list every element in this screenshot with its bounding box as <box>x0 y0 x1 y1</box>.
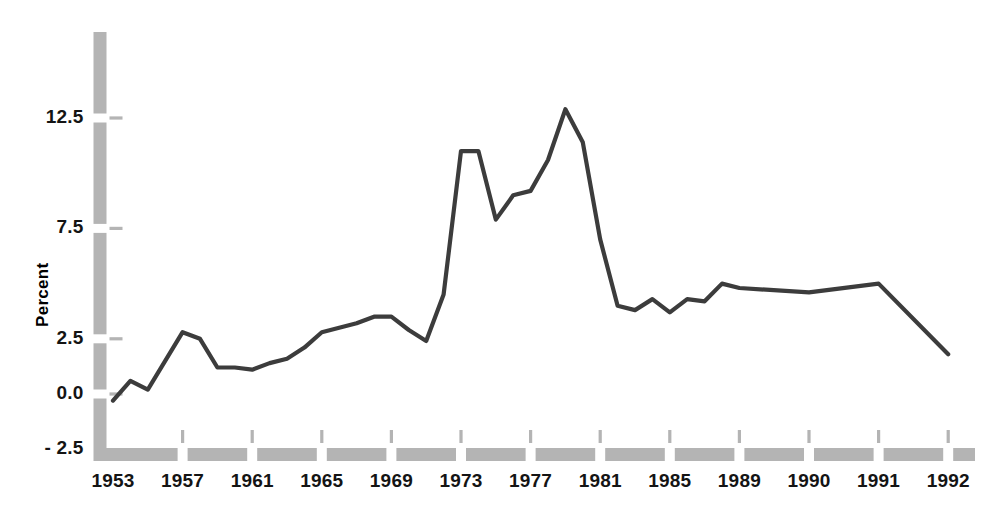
x-tick-label: 1957 <box>148 470 218 492</box>
x-tick-label: 1973 <box>426 470 496 492</box>
x-tick-label: 1992 <box>913 470 983 492</box>
y-tick-label: 7.5 <box>56 216 83 238</box>
x-tick-label: 1981 <box>565 470 635 492</box>
y-tick-label: 12.5 <box>46 106 84 128</box>
line-chart-plot <box>0 0 990 516</box>
data-series-line <box>113 109 948 400</box>
y-tick-label: - 2.5 <box>44 437 83 459</box>
x-tick-label: 1969 <box>356 470 426 492</box>
x-tick-label: 1961 <box>217 470 287 492</box>
y-tick-label: 0.0 <box>56 382 83 404</box>
x-tick-label: 1989 <box>704 470 774 492</box>
y-axis-title: Percent <box>33 237 53 327</box>
x-tick-label: 1953 <box>78 470 148 492</box>
chart-container: Percent 12.57.52.50.0- 2.5 1953195719611… <box>0 0 990 516</box>
x-tick-label: 1990 <box>774 470 844 492</box>
y-tick-label: 2.5 <box>56 327 83 349</box>
x-tick-label: 1977 <box>496 470 566 492</box>
x-tick-label: 1985 <box>635 470 705 492</box>
x-tick-label: 1991 <box>844 470 914 492</box>
y-axis-tick-marks <box>110 116 123 395</box>
x-axis-tick-marks <box>181 430 950 443</box>
x-axis-bar <box>94 448 976 461</box>
x-tick-label: 1965 <box>287 470 357 492</box>
y-axis-bar <box>94 32 107 448</box>
